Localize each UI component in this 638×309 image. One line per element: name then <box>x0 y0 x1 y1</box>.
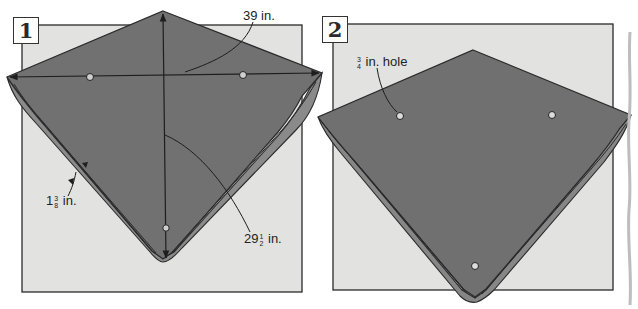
diagram-canvas <box>0 0 638 309</box>
hole-size-label: 34 in. hole <box>356 54 407 70</box>
hole-bottom-2 <box>472 263 479 270</box>
page-edge-divider <box>629 32 631 305</box>
kite-instruction-diagram: 1 2 39 in. 138 in. 2912 in. 34 in. hole <box>0 0 638 309</box>
hole-right-2 <box>549 112 556 119</box>
height-numerator: 1 <box>259 233 263 240</box>
width-value: 39 <box>243 8 257 23</box>
hole-left-1 <box>87 74 94 81</box>
height-measurement-label: 2912 in. <box>244 231 282 247</box>
height-denominator: 2 <box>259 240 263 247</box>
height-whole: 29 <box>244 231 258 246</box>
width-unit: in. <box>261 8 275 23</box>
panel-1 <box>7 11 322 292</box>
height-fraction: 12 <box>259 233 263 247</box>
hole-denominator: 4 <box>357 63 361 70</box>
hem-measurement-label: 138 in. <box>46 193 77 209</box>
step-number-2: 2 <box>322 16 348 43</box>
hole-unit: in. hole <box>366 54 408 69</box>
hem-denominator: 8 <box>54 202 58 209</box>
hole-left-2 <box>397 113 404 120</box>
width-measurement-label: 39 in. <box>243 8 275 23</box>
hole-bottom-1 <box>163 225 169 231</box>
hem-numerator: 3 <box>54 195 58 202</box>
hem-fraction: 38 <box>54 195 58 209</box>
hem-unit: in. <box>63 193 77 208</box>
step-number-1: 1 <box>13 17 39 44</box>
height-unit: in. <box>268 231 282 246</box>
hem-whole: 1 <box>46 193 53 208</box>
hole-fraction: 34 <box>357 56 361 70</box>
hole-numerator: 3 <box>357 56 361 63</box>
hole-right-1 <box>240 72 247 79</box>
